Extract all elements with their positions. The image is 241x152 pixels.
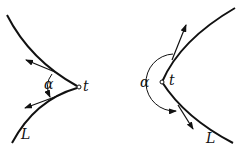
curve-upper-branch <box>162 8 235 82</box>
tangent-arrow-lower <box>178 105 193 129</box>
corner-figure <box>146 8 235 143</box>
curve-label-left: L <box>21 127 30 141</box>
point-label-left: t <box>83 79 89 93</box>
tangent-arrow-upper <box>26 60 55 72</box>
angle-label-right: α <box>140 75 149 89</box>
angle-label-left: α <box>44 77 53 91</box>
diagram-canvas <box>0 0 241 152</box>
curve-lower-branch <box>162 82 233 143</box>
point-label-right: t <box>169 73 175 87</box>
curve-upper-branch <box>7 15 77 86</box>
point-t-marker <box>77 85 81 89</box>
curve-label-right: L <box>206 131 215 145</box>
point-t-marker <box>160 80 164 84</box>
